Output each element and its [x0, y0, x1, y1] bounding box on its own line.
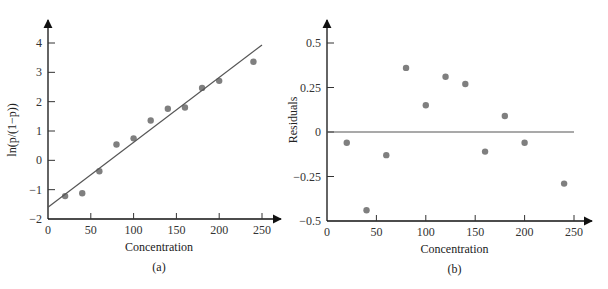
data-point — [148, 117, 154, 123]
y-tick-label: 0 — [315, 125, 321, 139]
y-tick-label: 2 — [36, 95, 42, 109]
data-point — [383, 152, 389, 158]
x-tick-label: 200 — [210, 223, 228, 237]
x-tick-label: 0 — [324, 225, 330, 239]
data-point — [482, 148, 488, 154]
y-tick-label: 3 — [36, 65, 42, 79]
x-tick-label: 250 — [565, 225, 583, 239]
figure-caption-clipped — [152, 283, 302, 289]
y-tick-label: −1 — [29, 183, 42, 197]
x-tick-label: 50 — [85, 223, 97, 237]
data-point — [250, 59, 256, 65]
panel-label: (a) — [152, 260, 165, 274]
y-tick-label: 0 — [36, 153, 42, 167]
data-point — [442, 74, 448, 80]
data-point — [79, 190, 85, 196]
y-tick-label: −0.25 — [293, 170, 321, 184]
data-point — [502, 113, 508, 119]
data-point — [521, 139, 527, 145]
x-axis-label: Concentration — [125, 240, 193, 254]
fitted-line — [48, 45, 262, 207]
panel-label: (b) — [448, 262, 462, 276]
data-point — [165, 106, 171, 112]
y-axis-label: Residuals — [286, 96, 300, 143]
x-tick-label: 150 — [466, 225, 484, 239]
x-tick-label: 100 — [417, 225, 435, 239]
x-axis-label: Concentration — [421, 242, 489, 256]
data-point — [561, 180, 567, 186]
chart-panel-a-logit-vs-concentration: 050100150200250−2−101234Concentrationln(… — [5, 20, 281, 274]
y-tick-label: −0.5 — [299, 214, 321, 228]
chart-panel-b-residuals-vs-concentration: 050100150200250−0.5−0.2500.250.5Concentr… — [286, 20, 592, 276]
data-point — [344, 139, 350, 145]
data-point — [462, 81, 468, 87]
y-tick-label: 0.5 — [306, 36, 321, 50]
y-axis-label: ln(p/(1−p)) — [5, 103, 19, 156]
x-tick-label: 100 — [125, 223, 143, 237]
figure-canvas: 050100150200250−2−101234Concentrationln(… — [0, 0, 608, 289]
data-point — [403, 65, 409, 71]
data-point — [423, 102, 429, 108]
data-point — [363, 207, 369, 213]
x-tick-label: 150 — [167, 223, 185, 237]
x-tick-label: 200 — [516, 225, 534, 239]
y-tick-label: 4 — [36, 36, 42, 50]
x-tick-label: 50 — [370, 225, 382, 239]
x-tick-label: 250 — [253, 223, 271, 237]
y-tick-label: 0.25 — [300, 81, 321, 95]
y-tick-label: −2 — [29, 212, 42, 226]
data-point — [113, 141, 119, 147]
x-tick-label: 0 — [45, 223, 51, 237]
y-tick-label: 1 — [36, 124, 42, 138]
